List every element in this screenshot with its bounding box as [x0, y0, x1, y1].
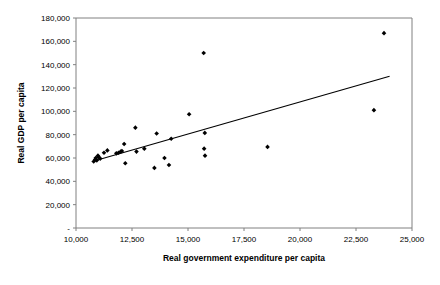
- y-tick-label: 140,000: [41, 61, 70, 70]
- y-tick-label: 60,000: [46, 154, 71, 163]
- y-tick-label: -: [67, 224, 70, 233]
- x-tick-label: 25,000: [400, 235, 425, 244]
- y-tick-label: 180,000: [41, 14, 70, 23]
- y-tick-label: 40,000: [46, 177, 71, 186]
- x-tick-label: 22,500: [344, 235, 369, 244]
- y-axis-title: Real GDP per capita: [16, 82, 26, 163]
- y-tick-label: 20,000: [46, 201, 71, 210]
- y-tick-label: 120,000: [41, 84, 70, 93]
- x-tick-label: 20,000: [288, 235, 313, 244]
- x-tick-label: 17,500: [232, 235, 257, 244]
- chart-canvas: -20,00040,00060,00080,000100,000120,0001…: [0, 0, 440, 285]
- y-tick-label: 160,000: [41, 37, 70, 46]
- x-axis-title: Real government expenditure per capita: [163, 253, 325, 263]
- y-tick-label: 100,000: [41, 107, 70, 116]
- x-tick-label: 10,000: [64, 235, 89, 244]
- scatter-chart: -20,00040,00060,00080,000100,000120,0001…: [0, 0, 440, 285]
- y-tick-label: 80,000: [46, 131, 71, 140]
- x-tick-label: 12,500: [120, 235, 145, 244]
- x-tick-label: 15,000: [176, 235, 201, 244]
